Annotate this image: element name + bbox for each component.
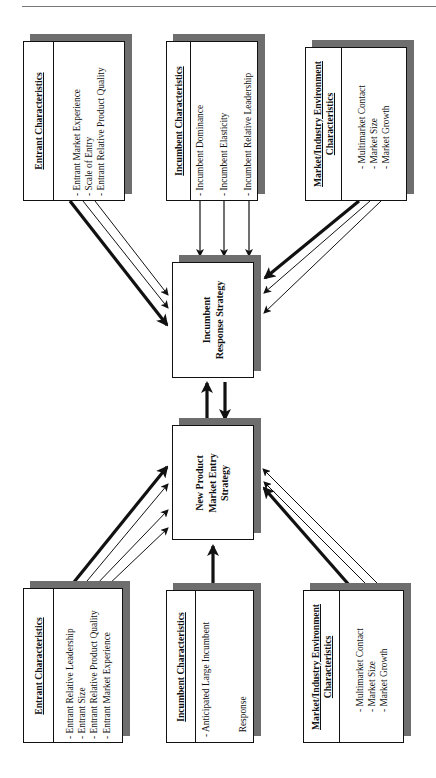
list-item: - Incumbent Relative Leadership xyxy=(236,46,260,196)
list-item: - Entrant Relative Product Quality xyxy=(88,593,100,739)
list-item: - Entrant Market Experience xyxy=(71,46,83,196)
entrant-characteristics-box-top: Entrant Characteristics - Entrant Market… xyxy=(23,41,125,201)
box-title-column: Market/Industry Environment Characterist… xyxy=(304,591,340,742)
list-item: - Market Size xyxy=(368,79,380,169)
box-frame: Market/Industry Environment Characterist… xyxy=(303,590,404,743)
incumbent-characteristics-box-top: Incumbent Characteristics - Incumbent Do… xyxy=(166,41,258,201)
arrows-incumbent-chars-to-incumbent-response xyxy=(200,201,249,256)
box-items-column: - Entrant Market Experience - Scale of E… xyxy=(54,42,124,200)
box-label-line: Incumbent xyxy=(201,281,214,360)
new-product-entry-strategy-box: New Product Market Entry Strategy xyxy=(172,425,254,540)
list-item: - Incumbent Dominance xyxy=(188,46,212,196)
list-item: - Market Growth xyxy=(378,622,390,712)
list-item-continuation: Response xyxy=(237,597,249,737)
box-items-column: - Entrant Relative Leadership - Entrant … xyxy=(54,589,122,742)
box-title: Market/Industry Environment Characterist… xyxy=(310,604,334,730)
box-items-list: - Entrant Market Experience - Scale of E… xyxy=(71,46,108,196)
list-item: - Incumbent Elasticity xyxy=(212,46,236,196)
box-items-column: - Multimarket Contact - Market Size - Ma… xyxy=(342,48,406,200)
box-frame: Incumbent Response Strategy xyxy=(172,262,254,378)
market-environment-box-top: Market/Industry Environment Characterist… xyxy=(305,47,407,201)
incumbent-response-strategy-box: Incumbent Response Strategy xyxy=(172,262,254,378)
box-title-line: Market/Industry Environment xyxy=(312,61,324,187)
list-item: - Entrant Relative Leadership xyxy=(64,593,76,739)
arrows-entrant-to-incumbent-response xyxy=(70,201,168,325)
arrows-between-strategies xyxy=(207,382,225,420)
box-items-list: - Entrant Relative Leadership - Entrant … xyxy=(64,593,113,739)
entrant-characteristics-box-bottom: Entrant Characteristics - Entrant Relati… xyxy=(23,588,123,743)
box-title-column: Entrant Characteristics xyxy=(24,589,54,742)
box-title-line: Market/Industry Environment xyxy=(310,604,322,730)
box-frame: Incumbent Characteristics - Anticipated … xyxy=(166,590,254,743)
box-title-line: Characteristics xyxy=(322,604,334,730)
box-title: Incumbent Characteristics xyxy=(173,66,185,176)
market-environment-box-bottom: Market/Industry Environment Characterist… xyxy=(303,590,404,743)
box-frame: New Product Market Entry Strategy xyxy=(172,425,254,540)
incumbent-characteristics-box-bottom: Incumbent Characteristics - Anticipated … xyxy=(166,590,254,743)
box-label: Incumbent Response Strategy xyxy=(201,281,226,360)
box-label: New Product Market Entry Strategy xyxy=(194,453,232,513)
box-frame: Entrant Characteristics - Entrant Market… xyxy=(23,41,125,201)
box-label-line: Strategy xyxy=(219,453,232,513)
box-label-line: Response Strategy xyxy=(213,281,226,360)
box-label-line: New Product xyxy=(194,453,207,513)
box-items-list: - Incumbent Dominance - Incumbent Elasti… xyxy=(188,46,260,196)
box-items-column: - Incumbent Dominance - Incumbent Elasti… xyxy=(191,42,257,200)
box-title: Entrant Characteristics xyxy=(33,72,45,169)
box-items-list: - Anticipated Large Incumbent Response xyxy=(176,597,274,737)
list-item: - Multimarket Contact xyxy=(353,622,365,712)
box-frame: Market/Industry Environment Characterist… xyxy=(305,47,407,201)
box-title-column: Entrant Characteristics xyxy=(24,42,54,200)
box-label-line: Market Entry xyxy=(207,453,220,513)
list-item: - Entrant Market Experience xyxy=(100,593,112,739)
box-title-column: Market/Industry Environment Characterist… xyxy=(306,48,342,200)
box-title-line: Characteristics xyxy=(324,61,336,187)
arrows-market-to-new-product xyxy=(263,469,380,586)
box-items-column: - Multimarket Contact - Market Size - Ma… xyxy=(340,591,403,742)
box-frame: Incumbent Characteristics - Incumbent Do… xyxy=(166,41,258,201)
list-item: - Scale of Entry xyxy=(83,46,95,196)
arrows-entrant-to-new-product xyxy=(70,467,168,587)
list-item: - Entrant Relative Product Quality xyxy=(95,46,107,196)
box-frame: Entrant Characteristics - Entrant Relati… xyxy=(23,588,123,743)
arrows-market-to-incumbent-response xyxy=(264,201,381,313)
list-item: - Market Size xyxy=(365,622,377,712)
list-item: - Market Growth xyxy=(380,79,392,169)
box-title: Entrant Characteristics xyxy=(33,617,45,714)
box-items-list: - Multimarket Contact - Market Size - Ma… xyxy=(356,79,393,169)
list-item: - Entrant Size xyxy=(76,593,88,739)
list-item: - Anticipated Large Incumbent xyxy=(200,597,212,737)
box-title: Market/Industry Environment Characterist… xyxy=(312,61,336,187)
list-item: - Multimarket Contact xyxy=(356,79,368,169)
box-items-column: - Anticipated Large Incumbent Response xyxy=(196,591,253,742)
box-items-list: - Multimarket Contact - Market Size - Ma… xyxy=(353,622,390,712)
